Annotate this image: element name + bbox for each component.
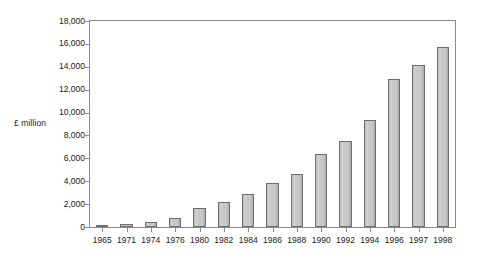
bar-slot <box>96 21 109 227</box>
x-tick-mark <box>200 228 201 232</box>
bar-slot <box>291 21 304 227</box>
y-tick-label: 0 <box>25 223 85 232</box>
y-tick-label: 8,000 <box>25 131 85 140</box>
bar <box>364 120 377 227</box>
bar <box>388 79 401 227</box>
x-tick-label: 1965 <box>93 236 112 245</box>
x-tick-mark <box>175 228 176 232</box>
bar-slot <box>242 21 255 227</box>
x-tick-label: 1976 <box>166 236 185 245</box>
y-tick-label: 16,000 <box>25 39 85 48</box>
x-tick-label: 1994 <box>360 236 379 245</box>
bar-slot <box>266 21 279 227</box>
bar-slot <box>437 21 450 227</box>
x-tick-label: 1982 <box>214 236 233 245</box>
x-tick-mark <box>151 228 152 232</box>
x-tick-label: 1980 <box>190 236 209 245</box>
bars-layer <box>90 21 455 227</box>
x-tick-label: 1992 <box>336 236 355 245</box>
y-tick-label: 14,000 <box>25 62 85 71</box>
y-tick-mark <box>85 113 89 114</box>
x-tick-mark <box>102 228 103 232</box>
y-tick-mark <box>85 44 89 45</box>
y-tick-mark <box>85 204 89 205</box>
x-tick-label: 1997 <box>409 236 428 245</box>
bar-slot <box>339 21 352 227</box>
bar <box>242 194 255 227</box>
x-tick-label: 1971 <box>117 236 136 245</box>
x-tick-mark <box>321 228 322 232</box>
y-tick-mark <box>85 227 89 228</box>
x-tick-label: 1990 <box>312 236 331 245</box>
bar-slot <box>193 21 206 227</box>
bar-chart: £ million 02,0004,0006,0008,00010,00012,… <box>0 0 479 259</box>
x-tick-mark <box>273 228 274 232</box>
y-tick-label: 2,000 <box>25 200 85 209</box>
x-tick-label: 1986 <box>263 236 282 245</box>
bar-slot <box>145 21 158 227</box>
bar <box>193 208 206 227</box>
y-tick-mark <box>85 181 89 182</box>
bar <box>96 225 109 228</box>
bar <box>339 141 352 227</box>
bar-slot <box>315 21 328 227</box>
bar <box>291 174 304 227</box>
bar <box>218 202 231 227</box>
y-tick-label: 10,000 <box>25 108 85 117</box>
bar <box>266 183 279 227</box>
y-tick-label: 4,000 <box>25 177 85 186</box>
bar-slot <box>388 21 401 227</box>
x-tick-mark <box>394 228 395 232</box>
y-axis-title: £ million <box>14 118 46 128</box>
y-tick-mark <box>85 90 89 91</box>
bar <box>437 47 450 227</box>
x-tick-label: 1998 <box>433 236 452 245</box>
x-tick-mark <box>419 228 420 232</box>
x-tick-mark <box>297 228 298 232</box>
x-tick-mark <box>248 228 249 232</box>
bar <box>120 224 133 227</box>
bar-slot <box>169 21 182 227</box>
y-tick-label: 12,000 <box>25 85 85 94</box>
x-tick-mark <box>370 228 371 232</box>
y-tick-mark <box>85 158 89 159</box>
y-tick-mark <box>85 135 89 136</box>
x-tick-label: 1988 <box>287 236 306 245</box>
bar <box>145 222 158 227</box>
x-tick-mark <box>224 228 225 232</box>
bar <box>412 65 425 228</box>
bar-slot <box>120 21 133 227</box>
y-tick-mark <box>85 67 89 68</box>
x-tick-mark <box>127 228 128 232</box>
x-tick-mark <box>443 228 444 232</box>
bar-slot <box>412 21 425 227</box>
x-tick-label: 1974 <box>141 236 160 245</box>
y-tick-label: 18,000 <box>25 17 85 26</box>
bar <box>169 218 182 227</box>
bar-slot <box>364 21 377 227</box>
y-tick-mark <box>85 21 89 22</box>
x-tick-label: 1984 <box>239 236 258 245</box>
x-tick-label: 1996 <box>385 236 404 245</box>
bar <box>315 154 328 227</box>
bar-slot <box>218 21 231 227</box>
x-tick-mark <box>346 228 347 232</box>
y-tick-label: 6,000 <box>25 154 85 163</box>
